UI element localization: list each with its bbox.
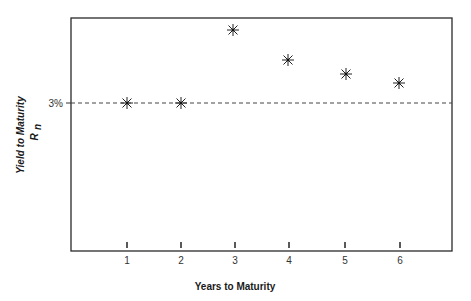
plot-frame: [71, 18, 452, 251]
y-axis-symbol-subscript: n: [32, 124, 43, 130]
x-ticks: [127, 242, 400, 248]
x-axis-title: Years to Maturity: [195, 281, 276, 292]
data-point-2: [175, 97, 187, 109]
data-point-5: [340, 68, 352, 80]
data-point-6: [393, 77, 405, 89]
chart: 3% 1 2 3 4 5 6 Years to Maturity Yield t…: [0, 0, 471, 301]
y-axis-title: Yield to Maturity: [15, 96, 26, 174]
y-axis-symbol: R: [29, 133, 40, 141]
x-tick-label-2: 2: [178, 255, 184, 266]
x-tick-label-5: 5: [342, 255, 348, 266]
y-tick-label-3pct: 3%: [49, 98, 64, 109]
x-tick-label-1: 1: [124, 255, 130, 266]
data-point-4: [282, 54, 294, 66]
data-point-1: [121, 97, 133, 109]
y-axis-subtitle: R n: [29, 124, 43, 141]
data-point-3: [227, 24, 239, 36]
x-tick-label-4: 4: [286, 255, 292, 266]
data-points: [121, 24, 405, 109]
y-axis-title-text: Yield to Maturity: [15, 96, 26, 174]
x-tick-labels: 1 2 3 4 5 6: [124, 255, 403, 266]
x-tick-label-3: 3: [232, 255, 238, 266]
x-tick-label-6: 6: [397, 255, 403, 266]
